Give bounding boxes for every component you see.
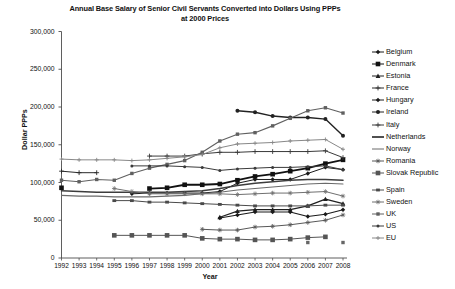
legend-marker-icon <box>371 196 386 208</box>
legend-marker-icon <box>371 106 386 118</box>
legend-item-ireland[interactable]: Ireland <box>371 106 455 118</box>
legend-marker-icon <box>371 232 386 244</box>
legend-label: Slovak Republic <box>386 167 446 177</box>
legend-label: UK <box>386 208 396 219</box>
legend-item-slovak-republic[interactable]: Slovak Republic <box>371 167 455 184</box>
series-group <box>59 106 345 244</box>
chart-legend: BelgiumDenmarkEstoniaFranceHungaryIrelan… <box>371 46 455 244</box>
legend-label: US <box>386 220 396 231</box>
legend-item-belgium[interactable]: Belgium <box>371 46 455 58</box>
y-tick-label: 300,000 <box>19 28 55 35</box>
legend-marker-icon <box>371 58 386 70</box>
series-spain <box>112 199 345 207</box>
legend-item-hungary[interactable]: Hungary <box>371 94 455 106</box>
legend-label: Belgium <box>386 46 412 57</box>
series-romania <box>200 213 345 233</box>
legend-label: Romania <box>386 155 415 166</box>
legend-item-spain[interactable]: Spain <box>371 184 455 196</box>
legend-item-estonia[interactable]: Estonia <box>371 70 455 82</box>
legend-label: Spain <box>386 184 405 195</box>
series-scatter-low <box>306 241 345 244</box>
series-france <box>59 169 99 175</box>
legend-item-sweden[interactable]: Sweden <box>371 196 455 208</box>
series-denmark <box>59 158 345 191</box>
y-tick-label: 250,000 <box>19 65 55 72</box>
legend-marker-icon <box>371 70 386 82</box>
series-us <box>130 164 344 172</box>
legend-marker-icon <box>371 167 386 179</box>
series-eu <box>60 137 346 162</box>
series-slovak-republic <box>112 233 328 242</box>
legend-marker-icon <box>371 155 386 167</box>
legend-item-eu[interactable]: EU <box>371 232 455 244</box>
legend-item-denmark[interactable]: Denmark <box>371 58 455 70</box>
legend-item-us[interactable]: US <box>371 220 455 232</box>
legend-marker-icon <box>371 82 386 94</box>
legend-marker-icon <box>371 220 386 232</box>
legend-item-norway[interactable]: Norway <box>371 143 455 155</box>
legend-marker-icon <box>371 46 386 58</box>
legend-marker-icon <box>371 94 386 106</box>
legend-marker-icon <box>371 119 386 131</box>
legend-marker-icon <box>371 143 386 155</box>
x-tick-label: 2008 <box>332 262 354 269</box>
y-tick-label: 50,000 <box>19 216 55 223</box>
legend-marker-icon <box>371 131 386 143</box>
legend-label: EU <box>386 232 396 243</box>
legend-item-italy[interactable]: Italy <box>371 119 455 131</box>
legend-label: Estonia <box>386 70 410 81</box>
legend-item-uk[interactable]: UK <box>371 208 455 220</box>
legend-marker-icon <box>371 184 386 196</box>
chart-root: Annual Base Salary of Senior Civil Serva… <box>0 0 455 289</box>
legend-marker-icon <box>371 208 386 220</box>
legend-label: Sweden <box>386 196 412 207</box>
y-tick-label: 200,000 <box>19 103 55 110</box>
legend-item-netherlands[interactable]: Netherlands <box>371 131 455 143</box>
legend-label: Norway <box>386 143 411 154</box>
legend-label: France <box>386 82 409 93</box>
legend-item-romania[interactable]: Romania <box>371 155 455 167</box>
legend-label: Denmark <box>386 58 416 69</box>
y-tick-label: 150,000 <box>19 141 55 148</box>
x-axis-label: Year <box>55 272 365 281</box>
legend-label: Italy <box>386 119 399 130</box>
legend-label: Netherlands <box>386 131 425 142</box>
legend-label: Ireland <box>386 106 408 117</box>
legend-label: Hungary <box>386 94 414 105</box>
y-tick-label: 0 <box>19 254 55 261</box>
y-tick-label: 100,000 <box>19 179 55 186</box>
series-italy <box>147 148 345 160</box>
y-axis-label: Dollar PPPs <box>20 90 29 170</box>
legend-item-france[interactable]: France <box>371 82 455 94</box>
